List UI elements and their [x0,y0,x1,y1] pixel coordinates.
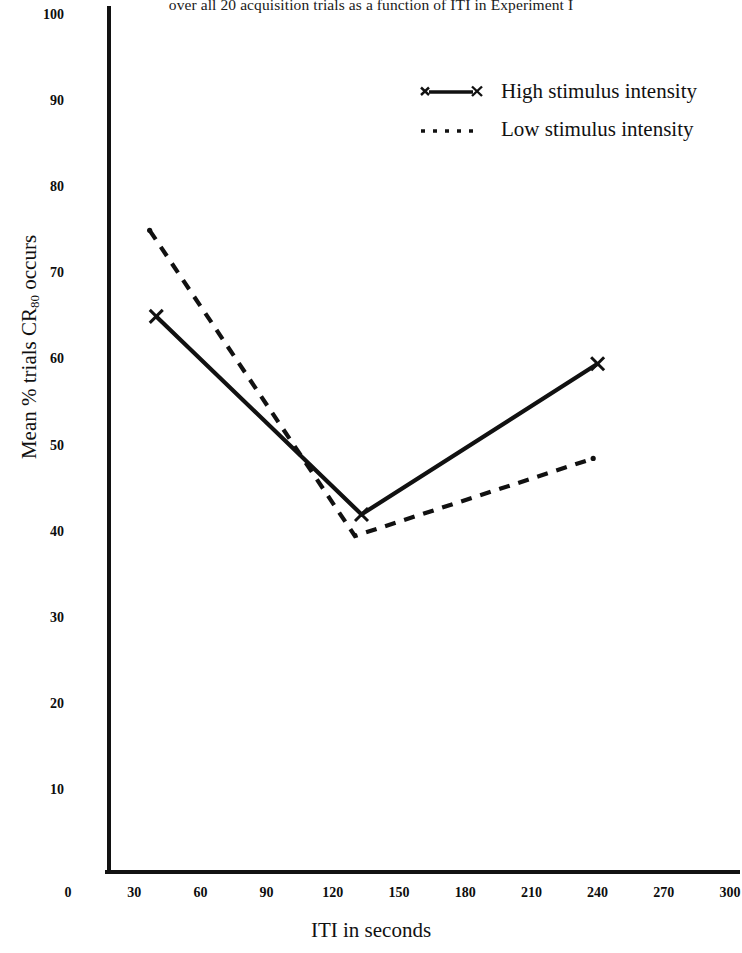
x-tick-label: 240 [568,885,628,901]
y-tick-label: 20 [20,697,64,711]
x-tick-label: 0 [38,885,98,901]
legend-item-high: High stimulus intensity [415,72,742,110]
series-low-endpoint-dot [147,228,152,233]
legend-label-low: Low stimulus intensity [495,117,694,142]
series-low-line [150,230,594,536]
legend-item-low: Low stimulus intensity [415,110,742,148]
legend-swatch-solid [415,81,495,101]
series-low-stimulus-intensity [147,228,596,536]
y-tick-label: 10 [20,783,64,797]
data-point-marker-x [150,310,163,323]
x-tick-label: 90 [237,885,297,901]
legend-x-marker-left [421,88,429,96]
series-high-stimulus-intensity [150,310,604,521]
x-tick-label: 300 [700,885,742,901]
legend-swatch-dotted [415,119,495,139]
y-tick-label: 30 [20,611,64,625]
series-high-line [156,316,597,514]
chart-legend: High stimulus intensity Low stimulus int… [415,72,742,148]
y-tick-label: 40 [20,525,64,539]
figure-root: over all 20 acquisition trials as a func… [0,0,742,953]
y-axis-title-subscript: 80 [27,295,42,308]
x-tick-label: 60 [170,885,230,901]
x-tick-label: 180 [435,885,495,901]
x-tick-label: 210 [501,885,561,901]
y-axis-title: Mean % trials CR80 occurs [17,235,43,459]
legend-x-marker-right [472,87,482,97]
data-point-marker-x [355,508,368,521]
x-tick-label: 270 [634,885,694,901]
legend-key-high-solid-x-icon [415,81,495,101]
legend-label-high: High stimulus intensity [495,79,697,104]
y-tick-label: 100 [20,8,64,22]
x-axis-title: ITI in seconds [0,918,742,943]
series-high-markers [150,310,604,521]
x-tick-label: 120 [303,885,363,901]
y-axis-title-tail: occurs [17,235,41,295]
y-tick-label: 90 [20,94,64,108]
x-tick-label: 150 [369,885,429,901]
y-axis-title-main: Mean % trials CR [17,308,41,459]
data-point-marker-x [591,357,604,370]
x-tick-label: 30 [104,885,164,901]
series-low-endpoint-dot [591,456,596,461]
legend-key-low-dotted-icon [415,119,495,139]
x-axis-tick-labels: 0306090120150180210240270300 [0,885,742,909]
y-axis-title-wrapper: Mean % trials CR80 occurs [13,177,47,517]
